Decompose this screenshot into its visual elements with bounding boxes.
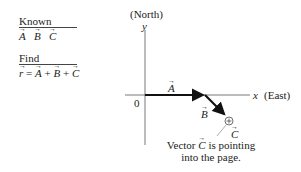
origin-label: 0: [134, 97, 140, 109]
vector-a-label: A: [168, 82, 175, 94]
caption: Vector C is pointing into the page.: [158, 139, 264, 163]
caption-line-2: into the page.: [158, 151, 264, 163]
east-label: (East): [264, 89, 290, 101]
caption-line-1: Vector C is pointing: [158, 139, 264, 151]
north-label: (North): [130, 8, 163, 20]
y-axis-label: y: [142, 20, 147, 32]
caption-pointer: [217, 125, 226, 136]
vector-b-label: B: [201, 108, 208, 120]
x-axis-label: x: [253, 89, 258, 101]
